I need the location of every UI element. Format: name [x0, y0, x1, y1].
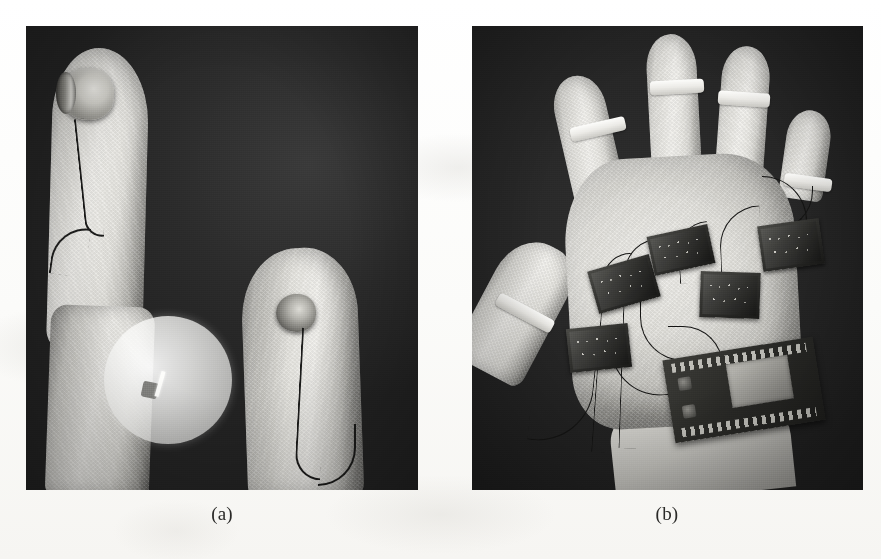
magnifier-overlay	[104, 316, 232, 444]
reset-button	[677, 376, 692, 391]
figure-panel-b	[472, 26, 863, 490]
rf-shield-module	[726, 355, 794, 408]
sensor-board-3	[699, 271, 761, 319]
figure-container: (a) (b)	[0, 0, 881, 559]
panel-caption-b: (b)	[587, 503, 747, 525]
sensor-board-5	[566, 323, 632, 373]
figure-panel-a	[26, 26, 418, 490]
tape-band-middle	[650, 79, 705, 96]
sensor-disc-upper-rim	[56, 72, 76, 114]
panel-caption-a: (a)	[142, 503, 302, 525]
flash-button	[682, 404, 697, 419]
sensor-disc-lower	[276, 294, 316, 332]
sensor-board-4	[757, 218, 825, 272]
